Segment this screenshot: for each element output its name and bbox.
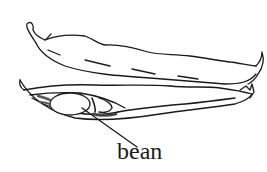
bean-label: bean — [117, 139, 162, 163]
closed-pod — [27, 23, 263, 84]
bean-seed — [38, 93, 116, 116]
